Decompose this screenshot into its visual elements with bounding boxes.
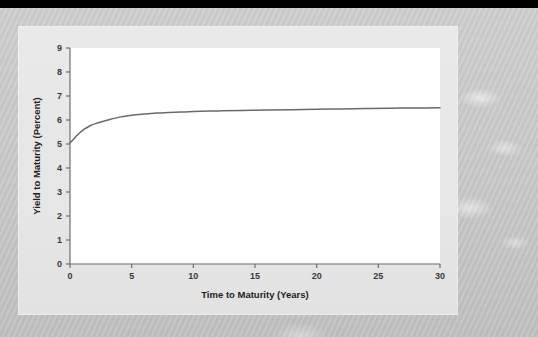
y-axis-tick-labels: 0123456789 [57,43,62,269]
y-tick-label: 9 [57,43,62,53]
x-axis-title: Time to Maturity (Years) [201,289,309,300]
x-tick-label: 5 [129,271,134,281]
y-tick-label: 5 [57,139,62,149]
top-black-band [0,0,538,8]
x-tick-label: 10 [188,271,198,281]
chart-svg: 0123456789 051015202530 Time to Maturity… [18,26,458,315]
x-axis-tick-labels: 051015202530 [67,271,445,281]
y-tick-label: 3 [57,187,62,197]
y-tick-label: 4 [57,163,62,173]
plot-background [70,48,440,264]
y-tick-label: 7 [57,91,62,101]
y-tick-label: 0 [57,259,62,269]
x-tick-label: 25 [373,271,383,281]
x-tick-label: 20 [312,271,322,281]
x-axis-tick-marks [70,264,440,268]
y-tick-label: 1 [57,235,62,245]
x-tick-label: 30 [435,271,445,281]
x-tick-label: 15 [250,271,260,281]
x-tick-label: 0 [67,271,72,281]
y-tick-label: 8 [57,67,62,77]
figure-panel: 0123456789 051015202530 Time to Maturity… [18,26,458,315]
y-axis-title: Yield to Maturity (Percent) [31,97,42,214]
y-tick-label: 2 [57,211,62,221]
yield-curve-chart: 0123456789 051015202530 Time to Maturity… [18,26,458,315]
y-tick-label: 6 [57,115,62,125]
